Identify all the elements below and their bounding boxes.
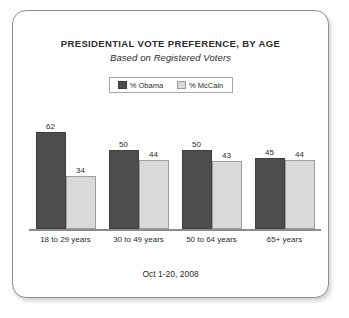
bar-group: 45 44 <box>248 119 321 229</box>
bar-wrap-obama: 45 <box>255 158 285 229</box>
chart-footer-note: Oct 1-20, 2008 <box>13 269 328 279</box>
bar-mccain: 44 <box>139 160 169 229</box>
legend-item-mccain: % McCain <box>177 81 223 90</box>
bar-obama: 62 <box>36 132 66 229</box>
x-axis-labels: 18 to 29 years 30 to 49 years 50 to 64 y… <box>29 235 321 244</box>
bar-obama: 50 <box>182 150 212 229</box>
bar-mccain: 43 <box>212 161 242 229</box>
plot-area: 62 34 50 44 <box>29 119 321 231</box>
bar-wrap-obama: 50 <box>182 150 212 229</box>
bar-wrap-mccain: 34 <box>66 176 96 229</box>
chart-header: PRESIDENTIAL VOTE PREFERENCE, BY AGE Bas… <box>13 11 328 65</box>
bar-value-label: 50 <box>119 140 128 149</box>
legend-label-obama: % Obama <box>130 81 163 90</box>
bar-group: 50 44 <box>102 119 175 229</box>
chart-card: PRESIDENTIAL VOTE PREFERENCE, BY AGE Bas… <box>12 10 329 298</box>
bar-groups: 62 34 50 44 <box>29 119 321 229</box>
bar-mccain: 34 <box>66 176 96 229</box>
bar-mccain: 44 <box>285 160 315 229</box>
bar-obama: 50 <box>109 150 139 229</box>
x-axis-tick-label: 18 to 29 years <box>29 235 102 244</box>
bar-value-label: 44 <box>295 150 304 159</box>
bar-value-label: 44 <box>149 150 158 159</box>
x-axis-tick-label: 50 to 64 years <box>175 235 248 244</box>
legend-item-obama: % Obama <box>118 81 163 90</box>
bar-wrap-mccain: 43 <box>212 161 242 229</box>
bar-value-label: 45 <box>265 148 274 157</box>
bar-wrap-mccain: 44 <box>285 160 315 229</box>
legend-swatch-mccain-icon <box>177 81 186 89</box>
x-axis-line <box>29 229 321 231</box>
bar-value-label: 43 <box>222 151 231 160</box>
legend-label-mccain: % McCain <box>189 81 223 90</box>
x-axis-tick-label: 65+ years <box>248 235 321 244</box>
bar-group: 50 43 <box>175 119 248 229</box>
chart-legend: % Obama % McCain <box>109 77 233 93</box>
chart-subtitle: Based on Registered Voters <box>13 51 328 65</box>
bar-wrap-obama: 50 <box>109 150 139 229</box>
bar-wrap-obama: 62 <box>36 132 66 229</box>
bar-value-label: 62 <box>46 122 55 131</box>
bar-value-label: 50 <box>192 140 201 149</box>
bar-group: 62 34 <box>29 119 102 229</box>
legend-swatch-obama-icon <box>118 81 127 89</box>
x-axis-tick-label: 30 to 49 years <box>102 235 175 244</box>
bar-wrap-mccain: 44 <box>139 160 169 229</box>
bar-obama: 45 <box>255 158 285 229</box>
bar-value-label: 34 <box>76 166 85 175</box>
chart-title: PRESIDENTIAL VOTE PREFERENCE, BY AGE <box>13 37 328 50</box>
